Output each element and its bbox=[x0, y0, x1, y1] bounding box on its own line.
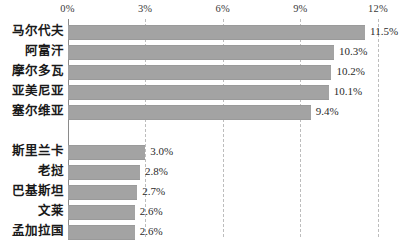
bar bbox=[68, 205, 135, 220]
bar-row: 摩尔多瓦10.2% bbox=[0, 62, 400, 82]
category-label: 阿富汗 bbox=[0, 44, 64, 59]
bar bbox=[68, 45, 335, 60]
bar-value-label: 2.6% bbox=[140, 224, 163, 239]
category-label: 孟加拉国 bbox=[0, 224, 64, 239]
bar-row: 斯里兰卡3.0% bbox=[0, 142, 400, 162]
category-label: 巴基斯坦 bbox=[0, 184, 64, 199]
category-label: 斯里兰卡 bbox=[0, 144, 64, 159]
bar bbox=[68, 65, 332, 80]
bar-row: 塞尔维亚9.4% bbox=[0, 102, 400, 122]
x-axis-tick-3: 3% bbox=[138, 3, 152, 14]
bar bbox=[68, 25, 366, 40]
bar-row: 文莱2.6% bbox=[0, 202, 400, 222]
category-label: 马尔代夫 bbox=[0, 24, 64, 39]
x-axis-tick-0: 0% bbox=[60, 3, 74, 14]
bar-row: 孟加拉国2.6% bbox=[0, 222, 400, 241]
x-axis-tick-12: 12% bbox=[368, 3, 388, 14]
bar bbox=[68, 185, 138, 200]
bar-row: 老挝2.8% bbox=[0, 162, 400, 182]
bar-value-label: 10.2% bbox=[336, 64, 364, 79]
bar-value-label: 2.8% bbox=[145, 164, 168, 179]
bar-value-label: 10.1% bbox=[334, 84, 362, 99]
bar-value-label: 9.4% bbox=[316, 104, 339, 119]
category-label: 亚美尼亚 bbox=[0, 84, 64, 99]
bar-value-label: 10.3% bbox=[339, 44, 367, 59]
x-axis-tick-labels: 0%3%6%9%12% bbox=[0, 0, 400, 22]
bar bbox=[68, 225, 135, 240]
category-label: 塞尔维亚 bbox=[0, 104, 64, 119]
horizontal-bar-chart: 0%3%6%9%12% 马尔代夫11.5%阿富汗10.3%摩尔多瓦10.2%亚美… bbox=[0, 0, 400, 241]
bar-value-label: 3.0% bbox=[150, 144, 173, 159]
bar bbox=[68, 85, 329, 100]
chart-plot-area: 马尔代夫11.5%阿富汗10.3%摩尔多瓦10.2%亚美尼亚10.1%塞尔维亚9… bbox=[0, 22, 400, 237]
bar-value-label: 2.6% bbox=[140, 204, 163, 219]
bar bbox=[68, 105, 311, 120]
category-label: 老挝 bbox=[0, 164, 64, 179]
bar-row: 巴基斯坦2.7% bbox=[0, 182, 400, 202]
category-label: 文莱 bbox=[0, 204, 64, 219]
x-axis-tick-6: 6% bbox=[216, 3, 230, 14]
bar bbox=[68, 145, 146, 160]
bar-row: 阿富汗10.3% bbox=[0, 42, 400, 62]
bar-value-label: 2.7% bbox=[142, 184, 165, 199]
category-label: 摩尔多瓦 bbox=[0, 64, 64, 79]
bar-value-label: 11.5% bbox=[370, 24, 398, 39]
bar bbox=[68, 165, 140, 180]
bar-row: 马尔代夫11.5% bbox=[0, 22, 400, 42]
x-axis-tick-9: 9% bbox=[293, 3, 307, 14]
bar-row: 亚美尼亚10.1% bbox=[0, 82, 400, 102]
